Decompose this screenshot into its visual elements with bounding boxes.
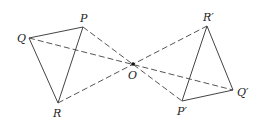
label-p-prime: P′ — [176, 105, 187, 118]
center-point-o — [131, 62, 135, 66]
dashed-line-q-qprime — [29, 38, 233, 90]
label-q: Q — [17, 32, 26, 45]
triangle-pqr — [29, 27, 83, 103]
label-o: O — [128, 69, 137, 82]
triangle-pqr-image — [182, 26, 233, 101]
label-r-prime: R′ — [202, 11, 214, 24]
geometry-figure: P Q R O R′ P′ Q′ — [0, 0, 263, 125]
label-q-prime: Q′ — [237, 86, 249, 99]
label-r: R — [52, 107, 61, 120]
label-p: P — [79, 12, 88, 25]
diagram-canvas: P Q R O R′ P′ Q′ — [0, 0, 263, 125]
